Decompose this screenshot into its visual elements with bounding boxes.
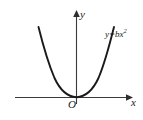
origin-label: O (68, 99, 76, 110)
equation-lhs: y= (105, 29, 115, 39)
equation-label: y=bx2 (105, 28, 127, 39)
y-axis-arrowhead (73, 10, 80, 17)
x-axis-label: x (131, 97, 136, 108)
equation-exponent: 2 (124, 27, 127, 34)
parabola-figure: y x O y=bx2 (0, 0, 143, 120)
y-axis-label: y (80, 9, 85, 20)
